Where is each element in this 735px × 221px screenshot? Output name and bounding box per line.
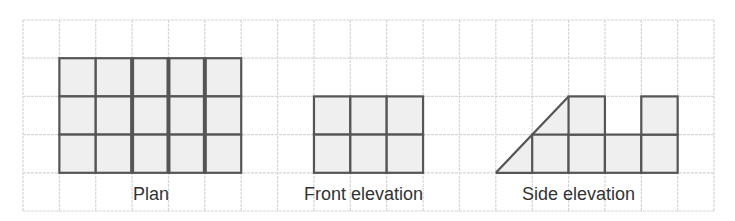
plan-cell bbox=[96, 135, 132, 173]
orthographic-views-diagram: Plan Front elevation Side elevation bbox=[0, 0, 735, 221]
front-cell bbox=[314, 135, 350, 173]
plan-cell bbox=[168, 58, 204, 96]
plan-view bbox=[59, 58, 241, 173]
plan-cell bbox=[59, 96, 95, 134]
plan-cell bbox=[96, 96, 132, 134]
plan-cell bbox=[132, 96, 168, 134]
plan-cell bbox=[59, 135, 95, 173]
plan-cell bbox=[132, 58, 168, 96]
side-cell bbox=[569, 96, 605, 134]
plan-label: Plan bbox=[133, 184, 169, 204]
side-cell bbox=[569, 135, 605, 173]
plan-cell bbox=[205, 96, 241, 134]
plan-cell bbox=[168, 96, 204, 134]
front-cell bbox=[350, 135, 386, 173]
side-cell bbox=[532, 135, 568, 173]
plan-cell bbox=[96, 58, 132, 96]
side-elevation-label: Side elevation bbox=[522, 184, 635, 204]
plan-cell bbox=[59, 58, 95, 96]
plan-cell bbox=[132, 135, 168, 173]
side-cell bbox=[605, 135, 641, 173]
front-cell bbox=[350, 96, 386, 134]
side-cell bbox=[641, 96, 677, 134]
front-cell bbox=[314, 96, 350, 134]
plan-cell bbox=[168, 135, 204, 173]
front-cell bbox=[387, 96, 423, 134]
plan-cell bbox=[205, 135, 241, 173]
side-cell bbox=[641, 135, 677, 173]
plan-cell bbox=[205, 58, 241, 96]
front-elevation-label: Front elevation bbox=[304, 184, 423, 204]
front-cell bbox=[387, 135, 423, 173]
front-elevation-view bbox=[314, 96, 423, 172]
